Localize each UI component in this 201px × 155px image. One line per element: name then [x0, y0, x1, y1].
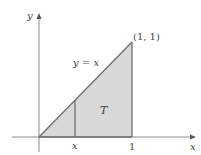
y-axis-label: y	[26, 10, 33, 21]
curve-label: y = x	[72, 57, 99, 68]
y-axis-arrow-icon	[37, 13, 42, 19]
strip-x-tick-label: x	[72, 140, 78, 151]
vertex-label: (1, 1)	[133, 31, 160, 42]
x-axis-arrow-icon	[190, 135, 196, 140]
x-axis-label: x	[190, 141, 196, 152]
one-tick-label: 1	[129, 141, 135, 152]
triangle-region-diagram: y x (1, 1) y = x T x 1	[0, 0, 201, 155]
